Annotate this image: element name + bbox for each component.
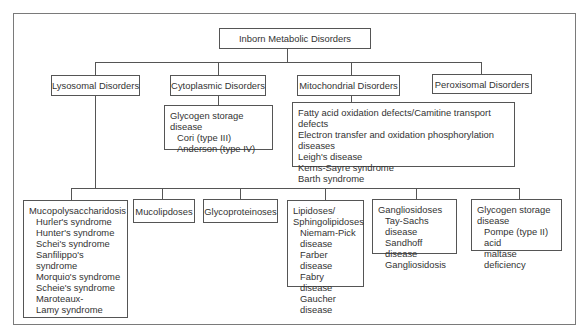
connector: [218, 62, 219, 75]
list-item: Schei's syndrome: [29, 238, 122, 249]
root-label: Inborn Metabolic Disorders: [239, 33, 351, 44]
connector: [325, 188, 326, 200]
connector: [481, 62, 482, 74]
detail-item: Fatty acid oxidation defects/Camitine tr…: [298, 107, 509, 129]
node-label: Lysosomal Disorders: [52, 80, 139, 91]
connector: [351, 62, 352, 75]
node-label: Glycoproteinoses: [204, 206, 276, 217]
node-label: Mucolipdoses: [135, 206, 192, 217]
node-mucopolysaccharidosis: Mucopolysaccharidosis Hurler's syndrome …: [23, 200, 128, 318]
list-item: Maroteaux-: [29, 293, 122, 304]
node-label: Peroxisomal Disorders: [435, 79, 529, 90]
node-mitochondrial-disorders: Mitochondrial Disorders: [297, 75, 400, 96]
node-label: Cytoplasmic Disorders: [171, 80, 265, 91]
node-label-line: disease: [477, 215, 556, 226]
node-label: Mitochondrial Disorders: [299, 80, 397, 91]
connector: [519, 188, 520, 199]
node-label: Mucopolysaccharidosis: [29, 205, 122, 216]
list-item: Pompe (type II) acid: [477, 226, 556, 248]
node-label: Gangliosidoses: [378, 204, 451, 215]
connector: [218, 95, 219, 105]
connector: [162, 188, 163, 199]
list-item: Lamy syndrome: [29, 304, 122, 315]
detail-item: Kerns-Sayre syndrome: [298, 162, 509, 173]
connector: [95, 62, 96, 75]
connector: [351, 95, 352, 102]
list-item: Hurler's syndrome: [29, 216, 122, 227]
node-label-line: Sphingolipidoses: [293, 216, 358, 227]
cytoplasmic-details: Glycogen storage disease Cori (type III)…: [164, 105, 273, 150]
detail-item: Leigh's disease: [298, 151, 509, 162]
list-item: Fabry disease: [293, 271, 358, 293]
node-glycogen-storage-disease: Glycogen storage disease Pompe (type II)…: [471, 199, 562, 251]
connector: [240, 188, 241, 199]
node-mucolipdoses: Mucolipdoses: [133, 199, 195, 223]
detail-item: Cori (type III): [170, 132, 267, 143]
node-lipidoses-sphingolipidoses: Lipidoses/ Sphingolipidoses Niemam-Pick …: [287, 200, 364, 287]
list-item: Gaucher disease: [293, 293, 358, 315]
list-item: Farber disease: [293, 249, 358, 271]
list-item: Morquio's syndrome: [29, 271, 122, 282]
node-cytoplasmic-disorders: Cytoplasmic Disorders: [170, 75, 266, 96]
list-item: Sandhoff disease: [378, 237, 451, 259]
list-item: Sanfilippo's syndrome: [29, 249, 122, 271]
list-item: Tay-Sachs disease: [378, 215, 451, 237]
detail-item: Electron transfer and oxidation phosphor…: [298, 129, 509, 151]
node-gangliosidoses: Gangliosidoses Tay-Sachs disease Sandhof…: [372, 199, 457, 254]
detail-item: Barth syndrome: [298, 173, 509, 184]
node-label-line: Lipidoses/: [293, 205, 358, 216]
list-item: maltase deficiency: [477, 248, 556, 270]
list-item: Niemam-Pick: [293, 227, 358, 238]
connector: [71, 188, 520, 189]
node-glycoproteinoses: Glycoproteinoses: [203, 199, 278, 223]
root-node: Inborn Metabolic Disorders: [219, 28, 371, 49]
list-item: Hunter's syndrome: [29, 227, 122, 238]
list-item: disease: [293, 238, 358, 249]
node-peroxisomal-disorders: Peroxisomal Disorders: [432, 74, 532, 94]
node-lysosomal-disorders: Lysosomal Disorders: [51, 75, 140, 96]
connector: [287, 48, 288, 62]
list-item: Scheie's syndrome: [29, 282, 122, 293]
detail-heading: Glycogen storage disease: [170, 110, 267, 132]
node-label-line: Glycogen storage: [477, 204, 556, 215]
connector: [95, 62, 482, 63]
connector: [95, 95, 96, 188]
mitochondrial-details: Fatty acid oxidation defects/Camitine tr…: [292, 102, 515, 167]
connector: [416, 188, 417, 199]
connector: [71, 188, 72, 200]
detail-item: Anderson (type IV): [170, 143, 267, 154]
list-item: Gangliosidosis: [378, 259, 451, 270]
